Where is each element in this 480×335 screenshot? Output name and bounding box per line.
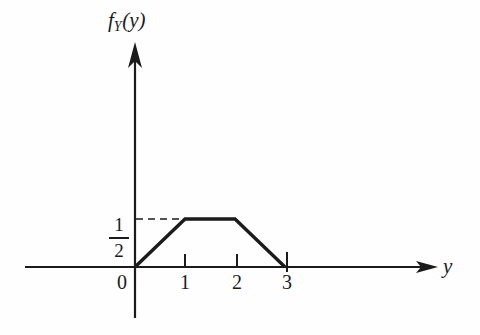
y-tick-label-one-half: 1 2 (107, 215, 131, 261)
x-tick-label-2: 2 (226, 272, 248, 292)
x-tick-label-1: 1 (174, 272, 196, 292)
fraction-numerator: 1 (107, 215, 131, 235)
x-tick-label-3: 3 (276, 272, 298, 292)
fraction-denominator: 2 (107, 241, 131, 261)
x-tick-label-0: 0 (111, 272, 133, 292)
y-axis-title-argument: (y) (122, 8, 145, 32)
density-curve (135, 219, 285, 267)
x-axis-title: y (443, 256, 452, 277)
y-axis-title-subscript: Y (114, 19, 122, 34)
y-axis-title: fY(y) (108, 10, 145, 34)
density-function-figure: fY(y) y 1 2 0 1 2 3 (0, 0, 480, 335)
fraction-bar (109, 237, 129, 239)
